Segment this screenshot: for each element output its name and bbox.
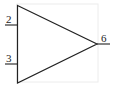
op-amp-diagram: 2 3 6 — [0, 0, 117, 88]
pin-6-label: 6 — [101, 32, 107, 44]
op-amp-triangle — [18, 6, 98, 84]
pin-2-label: 2 — [6, 13, 12, 25]
pin-3-label: 3 — [6, 52, 12, 64]
component-frame — [17, 4, 98, 82]
